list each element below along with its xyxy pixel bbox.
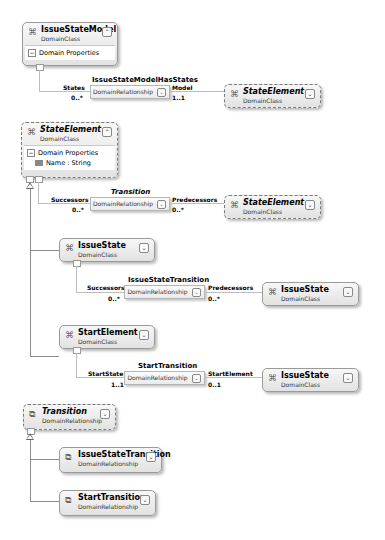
relationship-class-shape-start-transition[interactable]: ⧉ StartTransition DomainRelationship ⌄ [59, 490, 156, 516]
target-role: StartElement [208, 370, 253, 377]
class-shape-state-element-ref[interactable]: ⌘ StateElement DomainClass ⌄ [224, 195, 321, 219]
class-shape-issue-state-ref[interactable]: ⌘ IssueState DomainClass ⌄ [262, 368, 359, 392]
compartment-title: Domain Properties [39, 49, 99, 57]
connector-line [76, 377, 124, 378]
domain-properties-compartment: −Domain Properties [25, 45, 115, 60]
relationship-kind: DomainRelationship [91, 200, 155, 207]
inheritance-arrow-icon [26, 182, 34, 189]
expand-toggle-icon[interactable]: ⌄ [139, 243, 149, 253]
relationship-kind: DomainRelationship [91, 88, 155, 95]
expand-toggle-icon[interactable]: ⌄ [140, 495, 150, 505]
expand-toggle-icon[interactable]: ⌄ [192, 288, 201, 297]
class-name: IssueState [281, 371, 329, 380]
target-multiplicity: 0..* [208, 295, 220, 302]
class-name: StartTransition [78, 493, 146, 502]
connector-line [170, 91, 224, 92]
relationship-name: IssueStateTransition [128, 276, 209, 284]
domain-class-icon: ⌘ [28, 27, 38, 37]
connector-line [170, 203, 224, 204]
inheritance-line [30, 356, 59, 357]
relationship-class-shape-transition[interactable]: ⧉ Transition DomainRelationship ⌄ [23, 404, 116, 430]
compartment-title: Domain Properties [38, 149, 98, 157]
expand-toggle-icon[interactable]: ⌄ [100, 409, 110, 419]
domain-class-icon: ⌘ [65, 330, 75, 340]
class-kind: DomainClass [243, 97, 282, 104]
expand-knob-icon[interactable] [73, 347, 81, 354]
class-kind: DomainClass [40, 135, 79, 142]
collapse-compartment-icon[interactable]: − [27, 149, 35, 157]
domain-properties-compartment: −Domain Properties Name : String [24, 145, 115, 170]
source-multiplicity: 0..* [71, 94, 83, 101]
source-multiplicity: 0..* [72, 206, 84, 213]
domain-class-icon: ⌘ [27, 127, 37, 137]
expand-toggle-icon[interactable]: ⌄ [305, 89, 315, 99]
connector-line [38, 203, 90, 204]
relationship-kind: DomainRelationship [125, 288, 190, 295]
class-name: Transition [42, 407, 87, 416]
expand-toggle-icon[interactable]: ⌄ [192, 374, 201, 383]
expand-knob-icon[interactable] [35, 176, 43, 183]
inheritance-line [30, 501, 59, 502]
class-shape-start-element[interactable]: ⌘ StartElement DomainClass ⌄ [59, 325, 155, 349]
class-shape-issue-state-model[interactable]: ⌘ IssueStateModel DomainClass ⌃ −Domain … [22, 22, 118, 66]
connector-line [76, 292, 124, 293]
source-role: States [63, 84, 85, 91]
class-kind: DomainClass [78, 251, 117, 258]
connector-line [38, 182, 39, 204]
class-shape-state-element[interactable]: ⌘ StateElement DomainClass ⌃ −Domain Pro… [21, 122, 118, 178]
class-shape-issue-state-ref[interactable]: ⌘ IssueState DomainClass ⌄ [262, 282, 359, 306]
expand-toggle-icon[interactable]: ⌄ [343, 373, 353, 383]
domain-class-icon: ⌘ [230, 200, 240, 210]
expand-knob-icon[interactable] [73, 260, 81, 267]
target-role: Model [172, 84, 193, 91]
connector-line [205, 377, 262, 378]
target-role: Predecessors [172, 196, 217, 203]
collapse-toggle-icon[interactable]: ⌃ [102, 127, 112, 137]
domain-class-icon: ⌘ [65, 243, 75, 253]
class-kind: DomainClass [243, 208, 282, 215]
dsl-diagram-canvas[interactable]: ⌘ IssueStateModel DomainClass ⌃ −Domain … [0, 0, 385, 540]
class-name: IssueState [78, 241, 126, 250]
inheritance-line [30, 440, 31, 502]
expand-toggle-icon[interactable]: ⌄ [146, 452, 156, 462]
target-role: Predecessors [208, 284, 253, 291]
class-shape-state-element-ref[interactable]: ⌘ StateElement DomainClass ⌄ [224, 84, 321, 108]
expand-knob-icon[interactable] [36, 64, 44, 71]
expand-toggle-icon[interactable]: ⌄ [343, 287, 353, 297]
domain-class-icon: ⌘ [268, 373, 278, 383]
domain-relationship-icon: ⧉ [65, 452, 75, 462]
relationship-name: StartTransition [138, 362, 197, 370]
class-kind: DomainRelationship [78, 460, 138, 467]
relationship-shape-transition[interactable]: DomainRelationship ⌄ [90, 197, 170, 211]
domain-relationship-icon: ⧉ [65, 495, 75, 505]
relationship-shape-has-states[interactable]: DomainRelationship ⌄ [90, 85, 170, 99]
inheritance-line [30, 459, 59, 460]
relationship-class-shape-issue-state-transition[interactable]: ⧉ IssueStateTransition DomainRelationshi… [59, 447, 162, 473]
class-kind: DomainClass [281, 295, 320, 302]
collapse-compartment-icon[interactable]: − [28, 49, 36, 57]
source-multiplicity: 1..1 [111, 381, 124, 388]
inheritance-line [30, 189, 31, 357]
expand-toggle-icon[interactable]: ⌄ [157, 200, 166, 209]
class-name: StartElement [78, 328, 138, 337]
connector-line [76, 353, 77, 378]
domain-relationship-icon: ⧉ [29, 409, 39, 419]
relationship-kind: DomainRelationship [125, 374, 190, 381]
relationship-shape-start-transition[interactable]: DomainRelationship ⌄ [124, 371, 205, 385]
collapse-toggle-icon[interactable]: ⌃ [102, 27, 112, 37]
class-kind: DomainRelationship [42, 417, 102, 424]
class-name: StateElement [243, 198, 304, 207]
expand-toggle-icon[interactable]: ⌄ [305, 200, 315, 210]
relationship-name: Transition [111, 188, 150, 196]
expand-toggle-icon[interactable]: ⌄ [139, 330, 149, 340]
relationship-name: IssueStateModelHasStates [92, 76, 198, 84]
expand-toggle-icon[interactable]: ⌄ [157, 88, 166, 97]
property-icon [35, 160, 43, 166]
class-kind: DomainClass [41, 35, 80, 42]
class-shape-issue-state[interactable]: ⌘ IssueState DomainClass ⌄ [59, 238, 155, 262]
property-row[interactable]: Name : String [27, 158, 112, 168]
inheritance-line [30, 250, 59, 251]
domain-class-icon: ⌘ [230, 89, 240, 99]
class-name: IssueStateTransition [78, 450, 171, 459]
relationship-shape-issue-state-transition[interactable]: DomainRelationship ⌄ [124, 285, 205, 299]
